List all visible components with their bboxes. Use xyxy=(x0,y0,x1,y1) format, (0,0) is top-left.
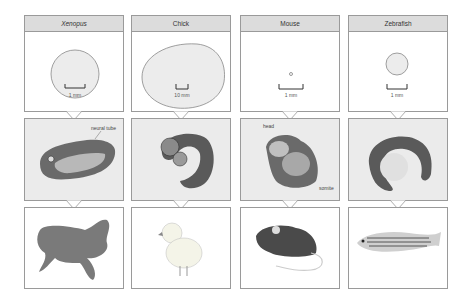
adult-panel-zebrafish xyxy=(348,207,448,289)
chick-icon xyxy=(132,208,232,290)
embryo-panel-mouse: head somite xyxy=(240,118,340,201)
embryo-panel-xenopus: neural tube xyxy=(24,118,124,201)
egg-panel-mouse: 1 mm xyxy=(240,31,340,112)
chick-egg-icon xyxy=(132,32,232,113)
egg-panel-xenopus: 1 mm xyxy=(24,31,124,112)
egg-panel-zebrafish: 1 mm xyxy=(348,31,448,112)
mouse-icon xyxy=(241,208,341,290)
adult-panel-mouse xyxy=(240,207,340,289)
zebrafish-embryo-icon xyxy=(349,119,449,202)
label-head: head xyxy=(263,123,274,129)
embryo-panel-zebrafish xyxy=(348,118,448,201)
header-xenopus: Xenopus xyxy=(24,15,124,32)
label-somite: somite xyxy=(319,185,334,191)
adult-panel-xenopus xyxy=(24,207,124,289)
scale-label: 10 mm xyxy=(162,92,202,98)
header-chick: Chick xyxy=(131,15,231,32)
frog-icon xyxy=(25,208,125,290)
scale-label: 1 mm xyxy=(55,92,95,98)
xenopus-egg-icon xyxy=(25,32,125,113)
chick-embryo-icon xyxy=(132,119,232,202)
zebrafish-egg-icon xyxy=(349,32,449,113)
adult-panel-chick xyxy=(131,207,231,289)
label-neural-tube: neural tube xyxy=(91,125,116,131)
egg-panel-chick: 10 mm xyxy=(131,31,231,112)
scale-label: 1 mm xyxy=(271,92,311,98)
mouse-egg-icon xyxy=(241,32,341,113)
header-mouse: Mouse xyxy=(240,15,340,32)
xenopus-embryo-icon xyxy=(25,119,125,202)
header-zebrafish: Zebrafish xyxy=(348,15,448,32)
zebrafish-icon xyxy=(349,208,449,290)
scale-label: 1 mm xyxy=(377,92,417,98)
embryo-panel-chick xyxy=(131,118,231,201)
